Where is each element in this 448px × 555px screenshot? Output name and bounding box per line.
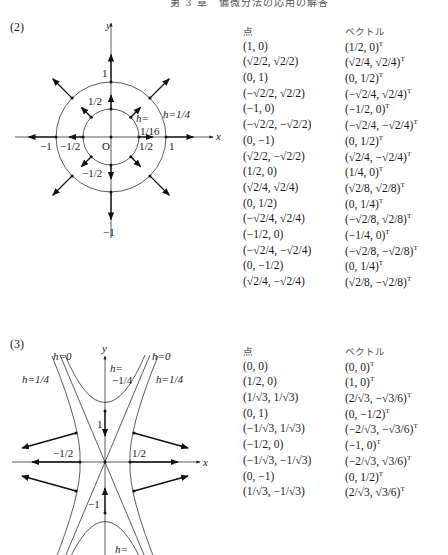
vector-cell: (−1, 0)T bbox=[345, 438, 381, 451]
point-cell: (√2/2, √2/2) bbox=[243, 55, 298, 67]
vector-value: (−1/4, 0) bbox=[345, 229, 385, 241]
vector-value: (−√2/8, √2/8) bbox=[345, 213, 407, 225]
vector-value: (−√2/4, √2/4) bbox=[345, 88, 407, 100]
vector-value: (−1/2, 0) bbox=[345, 103, 385, 115]
transpose-mark: T bbox=[413, 118, 417, 126]
transpose-mark: T bbox=[376, 438, 380, 446]
header-vector: ベクトル bbox=[345, 24, 385, 38]
transpose-mark: T bbox=[379, 470, 383, 478]
tick-y-neg-1: −1 bbox=[88, 498, 100, 510]
level-label-inner-2: 1/16 bbox=[140, 125, 160, 137]
point-cell: (−1, 0) bbox=[243, 102, 274, 114]
vector-value: (−1, 0) bbox=[345, 439, 376, 451]
transpose-mark: T bbox=[407, 391, 411, 399]
vector-cell: (0, 1/4)T bbox=[345, 197, 383, 210]
level-label-h0-right: h=0 bbox=[152, 350, 171, 362]
tick-x-neg-half: −1/2 bbox=[60, 140, 80, 152]
transpose-mark: T bbox=[370, 360, 374, 368]
vector-cell: (1, 0)T bbox=[345, 375, 374, 388]
transpose-mark: T bbox=[407, 87, 411, 95]
vector-cell: (−√2/8, √2/8)T bbox=[345, 212, 411, 225]
vector-value: (1/2, 0) bbox=[345, 41, 379, 53]
transpose-mark: T bbox=[370, 375, 374, 383]
vector-cell: (√2/8, −√2/8)T bbox=[345, 275, 411, 288]
tick-x-neg-1: −1 bbox=[40, 140, 52, 152]
vector-value: (0, 0) bbox=[345, 361, 370, 373]
vector-cell: (−√2/4, √2/4)T bbox=[345, 87, 411, 100]
point-cell: (−1/√3, 1/√3) bbox=[243, 422, 305, 434]
vector-value: (−2/√3, −√3/6) bbox=[345, 423, 413, 435]
point-cell: (√2/4, −√2/4) bbox=[243, 275, 305, 287]
vector-cell: (0, 0)T bbox=[345, 360, 374, 373]
vector-value: (√2/4, −√2/4) bbox=[345, 151, 407, 163]
section-2-diagram: x y O 1 −1 1/2 −1/2 1 −1 1/2 −1/2 h=1/4 … bbox=[0, 15, 220, 255]
vector-cell: (0, 1/2)T bbox=[345, 470, 383, 483]
transpose-mark: T bbox=[379, 165, 383, 173]
point-cell: (1/√3, −1/√3) bbox=[243, 485, 305, 497]
transpose-mark: T bbox=[379, 71, 383, 79]
vector-value: (2/√3, −√3/6) bbox=[345, 392, 407, 404]
vector-cell: (2/√3, √3/6)T bbox=[345, 485, 405, 498]
vector-cell: (√2/8, √2/8)T bbox=[345, 181, 405, 194]
tick-y-half: 1/2 bbox=[88, 95, 102, 107]
transpose-mark: T bbox=[379, 197, 383, 205]
tick-x-half: 1/2 bbox=[139, 140, 153, 152]
vector-cell: (0, 1/2)T bbox=[345, 134, 383, 147]
transpose-mark: T bbox=[400, 181, 404, 189]
level-label-inner-1: h= bbox=[136, 112, 149, 124]
transpose-mark: T bbox=[379, 259, 383, 267]
vector-cell: (−√2/4, −√2/4)T bbox=[345, 118, 418, 131]
point-cell: (−√2/2, −√2/2) bbox=[243, 118, 311, 130]
vector-cell: (√2/4, √2/4)T bbox=[345, 55, 405, 68]
point-cell: (0, 1) bbox=[243, 71, 268, 83]
header-vector: ベクトル bbox=[345, 344, 385, 358]
vector-value: (−√2/8, −√2/8) bbox=[345, 245, 413, 257]
vector-value: (0, 1/2) bbox=[345, 72, 379, 84]
tick-y-neg-half: −1/2 bbox=[82, 167, 102, 179]
point-cell: (0, −1/2) bbox=[243, 259, 283, 271]
point-cell: (−√2/4, −√2/4) bbox=[243, 244, 311, 256]
level-label-quarter-right: h=1/4 bbox=[156, 373, 183, 385]
transpose-mark: T bbox=[379, 40, 383, 48]
vector-cell: (2/√3, −√3/6)T bbox=[345, 391, 411, 404]
transpose-mark: T bbox=[407, 275, 411, 283]
transpose-mark: T bbox=[407, 454, 411, 462]
vector-value: (√2/4, √2/4) bbox=[345, 56, 400, 68]
point-cell: (0, 1) bbox=[243, 407, 268, 419]
vector-value: (0, 1/4) bbox=[345, 260, 379, 272]
y-axis-label: y bbox=[105, 19, 111, 31]
vector-cell: (0, −1/2)T bbox=[345, 407, 390, 420]
point-cell: (√2/4, √2/4) bbox=[243, 181, 298, 193]
tick-x-1: 1 bbox=[169, 140, 175, 152]
point-cell: (−1/√3, −1/√3) bbox=[243, 454, 311, 466]
page-header: 第 3 章 偏微分法の応用の解答 bbox=[0, 0, 448, 4]
section-3-diagram: x y 1 −1 1/2 −1/2 h=0 h=0 h=1/4 h=1/4 h=… bbox=[0, 330, 220, 555]
vector-cell: (−2/√3, √3/6)T bbox=[345, 454, 411, 467]
vector-cell: (−√2/8, −√2/8)T bbox=[345, 244, 418, 257]
vector-cell: (0, 1/4)T bbox=[345, 259, 383, 272]
x-axis-label: x bbox=[215, 130, 221, 142]
transpose-mark: T bbox=[400, 55, 404, 63]
vector-value: (1, 0) bbox=[345, 376, 370, 388]
point-cell: (0, 1/2) bbox=[243, 197, 277, 209]
transpose-mark: T bbox=[385, 228, 389, 236]
vector-value: (0, 1/2) bbox=[345, 135, 379, 147]
vector-value: (0, 1/2) bbox=[345, 471, 379, 483]
y-axis-label: y bbox=[101, 342, 107, 354]
vector-value: (−√2/4, −√2/4) bbox=[345, 119, 413, 131]
level-label-quarter-left: h=1/4 bbox=[22, 373, 49, 385]
tick-y-1: 1 bbox=[97, 418, 103, 430]
vector-cell: (−1/2, 0)T bbox=[345, 102, 390, 115]
vector-value: (2/√3, √3/6) bbox=[345, 486, 400, 498]
point-cell: (−√2/4, √2/4) bbox=[243, 212, 305, 224]
point-cell: (1/2, 0) bbox=[243, 165, 277, 177]
level-label-outer: h=1/4 bbox=[163, 108, 190, 120]
vector-value: (−2/√3, √3/6) bbox=[345, 455, 407, 467]
vector-value: (√2/8, −√2/8) bbox=[345, 276, 407, 288]
vector-cell: (1/4, 0)T bbox=[345, 165, 383, 178]
tick-x-half: 1/2 bbox=[132, 447, 146, 459]
point-cell: (√2/2, −√2/2) bbox=[243, 150, 305, 162]
origin-label: O bbox=[102, 140, 110, 152]
transpose-mark: T bbox=[385, 407, 389, 415]
vector-cell: (−2/√3, −√3/6)T bbox=[345, 422, 418, 435]
